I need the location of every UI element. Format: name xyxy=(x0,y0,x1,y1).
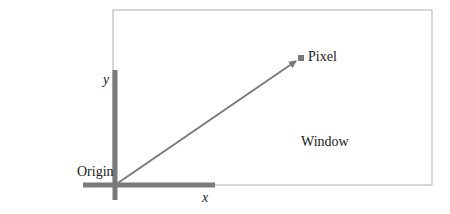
diagram-svg xyxy=(0,0,450,214)
x-axis-label: x xyxy=(202,191,208,205)
window-rectangle xyxy=(113,10,432,185)
y-axis-label: y xyxy=(103,73,109,87)
pixel-label: Pixel xyxy=(308,50,337,64)
origin-to-pixel-vector xyxy=(115,61,296,185)
window-label: Window xyxy=(301,135,349,149)
diagram-canvas: Origin y x Pixel Window xyxy=(0,0,450,214)
origin-label: Origin xyxy=(77,165,114,179)
pixel-marker xyxy=(298,55,304,61)
